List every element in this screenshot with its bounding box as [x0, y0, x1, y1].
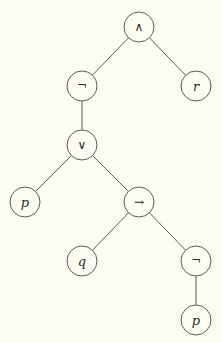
edge-and-to-not [92, 38, 128, 75]
edge-implies-to-not [149, 213, 185, 250]
node-label: q [78, 254, 86, 269]
edge-or-to-implies [93, 156, 129, 192]
node-q: q [67, 246, 97, 276]
node-label: → [134, 195, 144, 209]
node-label: r [193, 79, 200, 94]
node-r: r [181, 71, 211, 101]
node-label: ∨ [78, 138, 87, 152]
node-p: p [181, 305, 211, 335]
tree-edges [36, 38, 196, 305]
node-not: ¬ [181, 246, 211, 276]
edge-or-to-p [36, 156, 72, 192]
node-p: p [10, 187, 40, 217]
syntax-tree-diagram: ∧¬r∨p→q¬p [0, 0, 222, 343]
node-or: ∨ [67, 130, 97, 160]
node-label: p [192, 313, 201, 328]
node-and: ∧ [124, 12, 154, 42]
node-label: ¬ [191, 254, 201, 268]
node-label: p [21, 195, 30, 210]
edge-implies-to-q [92, 213, 128, 250]
node-label: ∧ [135, 20, 144, 34]
edge-and-to-r [149, 38, 185, 75]
node-implies: → [124, 187, 154, 217]
node-label: ¬ [77, 79, 87, 93]
node-not: ¬ [67, 71, 97, 101]
